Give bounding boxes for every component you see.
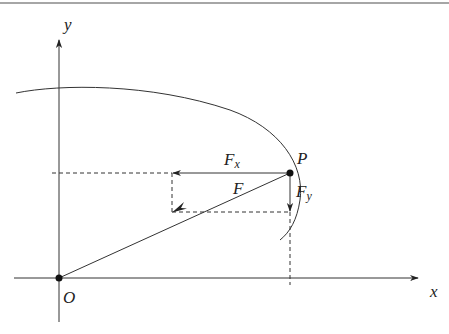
force-fy-label: Fy bbox=[296, 183, 312, 202]
force-f-arrow bbox=[172, 173, 290, 212]
origin-label: O bbox=[63, 289, 75, 306]
origin-point bbox=[56, 275, 63, 282]
point-p bbox=[287, 170, 294, 177]
line-op bbox=[59, 173, 290, 278]
dashed-guides bbox=[52, 173, 290, 285]
fy-sub: y bbox=[306, 189, 311, 203]
point-p-label: P bbox=[297, 150, 307, 167]
y-axis-label: y bbox=[64, 16, 72, 33]
fy-main: F bbox=[296, 182, 306, 201]
force-f-arrowhead bbox=[172, 202, 187, 213]
force-fx-label: Fx bbox=[224, 151, 240, 170]
x-axis-label: x bbox=[430, 283, 438, 300]
fx-sub: x bbox=[234, 157, 239, 171]
fx-main: F bbox=[224, 150, 234, 169]
force-f-label: F bbox=[233, 180, 243, 197]
